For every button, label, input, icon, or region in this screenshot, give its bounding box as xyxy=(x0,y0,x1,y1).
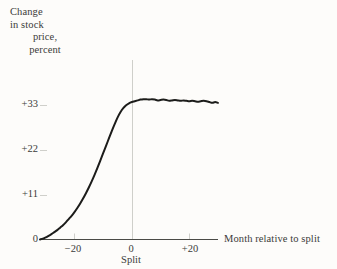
x-axis-title: Month relative to split xyxy=(224,233,320,244)
x-tick-label-minus20: −20 xyxy=(53,243,93,254)
y-tick-label-22: +22 xyxy=(6,143,38,154)
split-event-caption: Split xyxy=(111,254,151,265)
y-tick-label-11: +11 xyxy=(6,188,38,199)
chart-figure: Change in stock price, percent +33 +22 +… xyxy=(0,0,337,269)
y-tick-label-0: 0 xyxy=(6,233,38,244)
x-tick-label-0: 0 xyxy=(111,243,151,254)
y-tick-label-33: +33 xyxy=(6,98,38,109)
x-tick-label-plus20: +20 xyxy=(170,243,210,254)
data-line-cumulative-return xyxy=(40,99,218,239)
plot-area xyxy=(0,0,337,269)
x-tick-group xyxy=(75,234,190,240)
y-tick-group xyxy=(40,106,47,196)
